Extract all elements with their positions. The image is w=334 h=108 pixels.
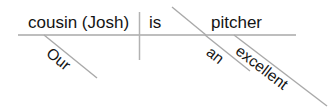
modifier-word-excellent: excellent [233,42,292,93]
modifier-group-excellent: excellent [233,42,292,93]
complement-word: pitcher [211,13,262,32]
modifier-word-an: an [203,43,227,67]
predicate-nominative-slant [172,7,206,35]
diagram-canvas: cousin (Josh) is pitcher Our an excellen… [0,0,334,108]
subject-word: cousin (Josh) [28,13,129,32]
modifier-group-an: an [203,43,227,67]
modifier-group-our: Our [43,44,74,73]
verb-word: is [149,13,161,32]
modifier-word-our: Our [43,44,74,73]
sentence-diagram: cousin (Josh) is pitcher Our an excellen… [0,0,334,108]
